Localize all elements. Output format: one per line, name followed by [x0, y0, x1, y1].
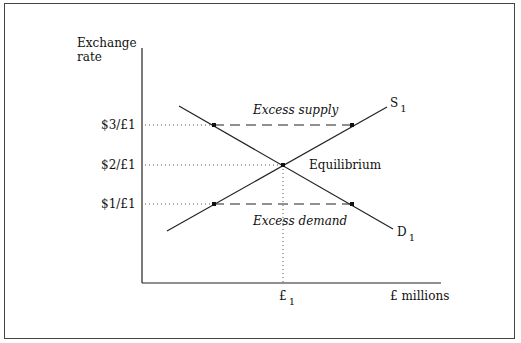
x-tick-q1: £1 [279, 290, 295, 303]
excess-supply-label: Excess supply [253, 104, 338, 117]
point-demand-3 [212, 123, 216, 127]
y-tick-2: $2/£1 [101, 159, 136, 172]
point-supply-3 [350, 123, 354, 127]
y-axis-label-line2: rate [77, 51, 102, 64]
y-tick-3: $3/£1 [101, 119, 136, 132]
equilibrium-label: Equilibrium [309, 159, 381, 172]
point-demand-1 [350, 202, 354, 206]
y-axis-label-line1: Exchange [77, 37, 137, 50]
point-equilibrium [281, 163, 285, 167]
x-axis-label: £ millions [390, 290, 449, 303]
supply-label: S1 [390, 97, 407, 110]
demand-label: D1 [397, 226, 415, 239]
y-tick-1: $1/£1 [101, 198, 136, 211]
point-supply-1 [212, 202, 216, 206]
excess-demand-label: Excess demand [253, 215, 347, 228]
